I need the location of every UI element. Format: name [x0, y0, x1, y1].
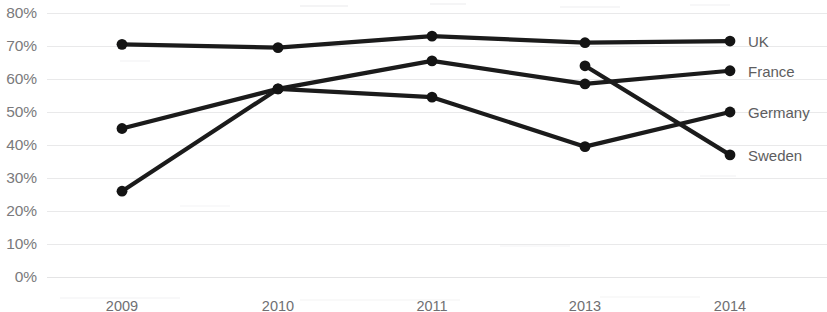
series-label-uk: UK: [748, 34, 769, 49]
line-chart: 0%10%20%30%40%50%60%70%80% 2009201020112…: [0, 0, 827, 312]
data-point-marker: [427, 31, 438, 42]
data-point-marker: [580, 37, 591, 48]
series-lines: [0, 0, 827, 312]
data-point-marker: [725, 107, 736, 118]
data-point-marker: [117, 186, 128, 197]
data-point-marker: [580, 141, 591, 152]
data-point-marker: [580, 60, 591, 71]
data-point-marker: [427, 55, 438, 66]
series-line: [122, 61, 730, 129]
data-point-marker: [725, 36, 736, 47]
data-point-marker: [580, 79, 591, 90]
series-label-sweden: Sweden: [748, 147, 802, 162]
series-label-germany: Germany: [748, 105, 810, 120]
data-point-marker: [725, 65, 736, 76]
data-point-marker: [273, 84, 284, 95]
data-point-marker: [273, 42, 284, 53]
data-point-marker: [725, 150, 736, 161]
series-label-france: France: [748, 63, 795, 78]
data-point-marker: [427, 92, 438, 103]
data-point-marker: [117, 39, 128, 50]
series-line: [122, 36, 730, 48]
data-point-marker: [117, 123, 128, 134]
